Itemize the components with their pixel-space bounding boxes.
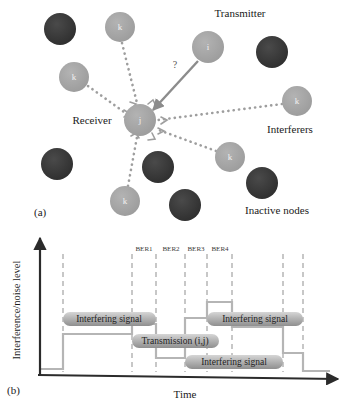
ber-label-1: BER1 [135,245,153,253]
link-interferer-left-to-j [88,86,124,112]
panel-b: Interfering signal Interfering signal Tr… [7,238,338,400]
x-axis [38,375,338,379]
x-axis-label: Time [174,388,197,400]
interferers-label: Interferers [267,123,313,135]
y-axis-label: Interference/noise level [11,261,22,360]
node-inactive-2 [256,36,288,68]
node-inactive-4 [142,151,174,183]
ber-labels: BER1 BER2 BER3 BER4 [135,245,229,253]
inactive-nodes-label: Inactive nodes [245,204,309,216]
link-interferer-right-to-j [158,104,282,120]
question-mark-label: ? [173,59,178,70]
link-interferer-lowright-to-j [156,129,216,151]
receiver-label: Receiver [72,114,111,126]
node-inactive-6 [169,189,201,221]
link-interferer-top-to-j [122,43,137,103]
ber-label-2: BER2 [162,245,180,253]
node-label-interferer-lowright: k [228,152,233,162]
bar-label-interfering-signal-3: Interfering signal [201,357,267,367]
bar-label-interfering-signal-1: Interfering signal [76,314,142,324]
node-inactive-5 [246,167,278,199]
node-label-interferer-bottom: k [123,196,128,206]
panel-a: k i k k j k k Transmitter Receiver Inter… [34,7,313,221]
node-label-receiver-j: j [138,115,142,125]
panel-a-caption: (a) [34,206,47,219]
figure-root: k i k k j k k Transmitter Receiver Inter… [0,0,347,410]
interference-links [88,43,282,186]
panel-b-caption: (b) [7,384,20,397]
node-label-interferer-right: k [295,96,300,106]
node-label-interferer-left: k [72,72,77,82]
node-inactive-1 [44,13,76,45]
bar-label-interfering-signal-2: Interfering signal [222,314,288,324]
ber-label-4: BER4 [211,245,229,253]
bar-label-transmission-ij: Transmission (i,j) [141,336,208,347]
ber-label-3: BER3 [187,245,205,253]
link-interferer-bottom-to-j [128,137,137,186]
node-label-interferer-top: k [118,22,123,32]
transmitter-label: Transmitter [215,7,266,19]
node-inactive-3 [41,148,73,180]
